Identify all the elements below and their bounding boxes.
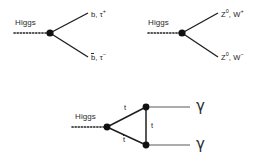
d1-lower-text: , τ — [95, 53, 102, 62]
d1-outgoing-lower-line — [50, 33, 88, 57]
d3-loop-lower-edge — [107, 127, 146, 145]
d2-vertex-dot — [178, 29, 185, 36]
t-antiparticle: t — [123, 136, 125, 144]
d3-higgs-label: Higgs — [75, 113, 96, 121]
d1-outgoing-upper-label: b, τ+ — [91, 9, 106, 18]
feynman-lines — [0, 0, 269, 163]
d3-top-quark-label-right: t — [151, 122, 153, 130]
d1-outgoing-lower-label: b, τ− — [91, 52, 106, 61]
d2-upper-w: , W — [229, 10, 241, 19]
d3-loop-vertex-bottom-dot — [143, 142, 150, 149]
d3-higgs-vertex-dot — [104, 124, 111, 131]
d1-vertex-dot — [46, 29, 53, 36]
d3-top-quark-label-upper: t — [124, 104, 126, 112]
figure-canvas: Higgs b, τ+ b, τ− Higgs Z0, W+ Z0, W− Hi… — [0, 0, 269, 163]
d1-lower-base: b — [91, 53, 95, 62]
d3-loop-upper-edge — [107, 107, 146, 127]
d2-outgoing-lower-line — [182, 33, 218, 57]
d3-antitop-base: t — [123, 135, 125, 144]
d2-lower-charge: − — [240, 51, 243, 57]
d3-antitop-quark-label-lower: t — [123, 136, 125, 144]
d2-outgoing-lower-label: Z0, W− — [221, 52, 244, 61]
d3-photon-lower-label: γ — [196, 137, 205, 152]
d1-higgs-label: Higgs — [15, 19, 36, 27]
d3-photon-upper-label: γ — [196, 99, 205, 114]
overbar — [123, 135, 124, 136]
d1-upper-text: b, τ — [91, 10, 103, 19]
d1-upper-charge: + — [103, 8, 106, 14]
b-antiparticle: b — [91, 54, 95, 62]
d2-outgoing-upper-line — [182, 13, 218, 33]
diagram-3-lines — [72, 104, 190, 149]
d2-higgs-label: Higgs — [148, 19, 169, 27]
d2-lower-w: , W — [229, 53, 241, 62]
d1-outgoing-upper-line — [50, 13, 88, 33]
d2-outgoing-upper-label: Z0, W+ — [221, 9, 244, 18]
d1-lower-charge: − — [103, 51, 106, 57]
overbar — [91, 53, 94, 54]
d3-loop-vertex-top-dot — [143, 104, 150, 111]
d2-upper-charge: + — [240, 8, 243, 14]
